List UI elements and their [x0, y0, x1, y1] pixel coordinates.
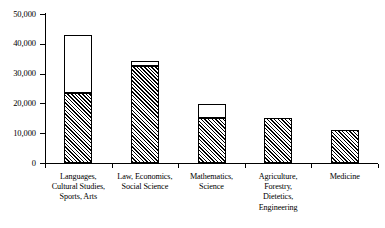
y-axis-tick-label: 50,000	[0, 10, 36, 19]
x-axis-tick	[112, 164, 113, 168]
bar-segment-hatched	[131, 66, 159, 163]
bar	[198, 104, 226, 163]
x-axis-tick	[178, 164, 179, 168]
x-axis-tick	[245, 164, 246, 168]
bar	[64, 35, 92, 163]
bar-segment-hatched	[264, 118, 292, 163]
bar-segment-hatched	[64, 93, 92, 163]
bar-segment-white	[198, 104, 226, 118]
plot-area	[45, 14, 378, 163]
bar	[264, 118, 292, 163]
category-label-line: Dietetics,	[239, 192, 318, 202]
x-axis-tick	[378, 164, 379, 168]
x-axis-tick	[45, 164, 46, 168]
x-axis-line	[45, 163, 378, 164]
y-axis-tick-label: 30,000	[0, 69, 36, 78]
category-label-line: Forestry,	[239, 182, 318, 192]
x-axis-category-label: Medicine	[305, 172, 384, 182]
category-label-line: Medicine	[305, 172, 384, 182]
y-axis-tick-label: 10,000	[0, 129, 36, 138]
y-axis-tick-label: 0	[0, 159, 36, 168]
bar-chart: 010,00020,00030,00040,00050,000 Language…	[0, 0, 385, 228]
y-axis-tick-label: 40,000	[0, 39, 36, 48]
bar	[331, 130, 359, 163]
bar-segment-hatched	[331, 130, 359, 163]
bar-segment-hatched	[198, 118, 226, 163]
bar-segment-white	[64, 35, 92, 93]
y-axis-tick-label: 20,000	[0, 99, 36, 108]
category-label-line: Engineering	[239, 203, 318, 213]
x-axis-tick	[311, 164, 312, 168]
category-label-line: Sports, Arts	[39, 192, 118, 202]
bar	[131, 61, 159, 163]
